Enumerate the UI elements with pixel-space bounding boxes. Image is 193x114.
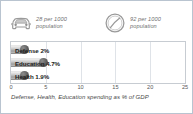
stat-cars: 28 per 1000 population: [8, 8, 102, 38]
bar-label: Defense 2%: [15, 46, 49, 53]
axis-tick-label: 10: [77, 84, 83, 90]
stat-phones: 92 per 1000 population: [102, 8, 188, 38]
bar-label: Health 1.9%: [15, 72, 49, 79]
infographic-card: 28 per 1000 population 92 per 1000 popul…: [0, 0, 193, 114]
axis-tick-label: 15: [112, 84, 118, 90]
chart-bars: Defense 2%Education 4.7%Health 1.9%: [11, 42, 185, 83]
phone-circle-icon: [102, 11, 128, 35]
x-axis: 0510152025: [10, 84, 186, 93]
stats-row: 28 per 1000 population 92 per 1000 popul…: [8, 8, 188, 38]
bar-row: Health 1.9%: [11, 70, 185, 81]
stat-phones-label: 92 per 1000 population: [128, 16, 161, 30]
bar-chart-plot: Defense 2%Education 4.7%Health 1.9%: [10, 41, 186, 84]
car-icon: [8, 11, 34, 35]
axis-tick-label: 25: [182, 84, 188, 90]
axis-tick-label: 0: [9, 84, 12, 90]
card-inner: 28 per 1000 population 92 per 1000 popul…: [4, 4, 190, 111]
bar-label: Education 4.7%: [15, 59, 60, 66]
axis-tick-label: 5: [44, 84, 47, 90]
chart-caption: Defense, Health, Education spending as %…: [11, 94, 189, 100]
bar-row: Education 4.7%: [11, 57, 185, 68]
axis-tick-label: 20: [147, 84, 153, 90]
stat-cars-label: 28 per 1000 population: [34, 16, 67, 30]
bar-row: Defense 2%: [11, 44, 185, 55]
